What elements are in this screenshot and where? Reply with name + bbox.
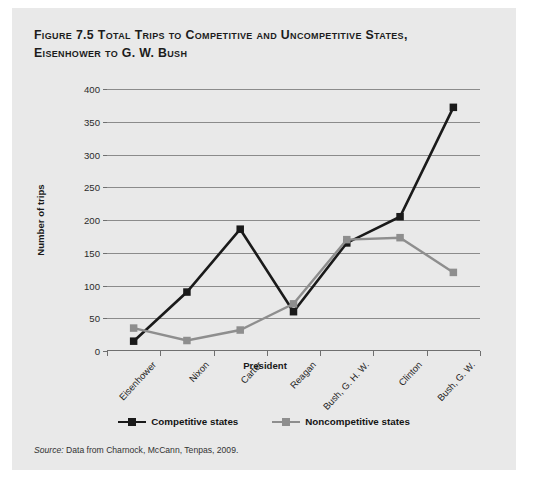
x-tick-label: Bush, G. W. [435,359,477,403]
x-tick-label: Reagan [287,359,317,391]
chart-legend: Competitive statesNoncompetitive states [12,416,516,427]
x-tick-label: Nixon [187,359,211,384]
x-tick-mark [373,351,374,356]
data-point-marker [130,324,138,332]
data-point-marker [290,308,298,316]
chart-plot-area: Number of trips 050100150200250300350400… [34,72,496,372]
y-tick-label: 300 [84,149,100,160]
data-point-marker [183,337,191,345]
figure-title-line-1: Figure 7.5 Total Trips to Competitive an… [34,26,496,44]
figure-title: Figure 7.5 Total Trips to Competitive an… [34,26,496,62]
x-tick-mark [480,351,481,356]
x-tick-mark [214,351,215,356]
x-tick-mark [160,351,161,356]
x-tick-label: Bush, G. H. W. [320,359,370,412]
y-tick-label: 50 [89,313,100,324]
data-point-marker [396,234,404,242]
y-tick-label: 400 [84,84,100,95]
y-axis-title: Number of trips [35,184,46,255]
legend-swatch-icon [272,417,300,426]
data-point-marker [130,337,138,345]
figure-title-line-2: Eisenhower to G. W. Bush [34,44,496,62]
x-tick-mark [427,351,428,356]
y-tick-label: 100 [84,280,100,291]
x-tick-mark [267,351,268,356]
legend-item[interactable]: Competitive states [118,416,238,427]
legend-label: Competitive states [151,416,238,427]
x-tick-label: Eisenhower [116,359,157,402]
data-point-marker [236,326,244,334]
figure-card: Figure 7.5 Total Trips to Competitive an… [12,8,516,470]
x-tick-label: Clinton [396,359,424,388]
data-point-marker [290,300,298,308]
y-tick-label: 200 [84,215,100,226]
source-note-lead: Source: [34,445,64,455]
legend-item[interactable]: Noncompetitive states [272,416,410,427]
plot-box: 050100150200250300350400 EisenhowerNixon… [107,89,480,351]
data-point-marker [450,104,458,112]
y-tick-label: 150 [84,247,100,258]
legend-label: Noncompetitive states [305,416,410,427]
source-note: Source: Data from Charnock, McCann, Tenp… [34,445,238,455]
y-tick-label: 250 [84,182,100,193]
x-tick-mark [320,351,321,356]
data-point-marker [396,213,404,221]
source-note-text: Data from Charnock, McCann, Tenpas, 2009… [64,445,239,455]
x-tick-mark [107,351,108,356]
data-point-marker [343,236,351,244]
x-axis-title: President [243,360,287,371]
data-point-marker [450,269,458,277]
y-tick-label: 350 [84,116,100,127]
data-point-marker [183,288,191,296]
y-tick-label: 0 [95,346,100,357]
data-point-marker [236,225,244,233]
series-line [134,238,454,341]
data-series-layer [107,89,480,351]
legend-swatch-icon [118,417,146,426]
